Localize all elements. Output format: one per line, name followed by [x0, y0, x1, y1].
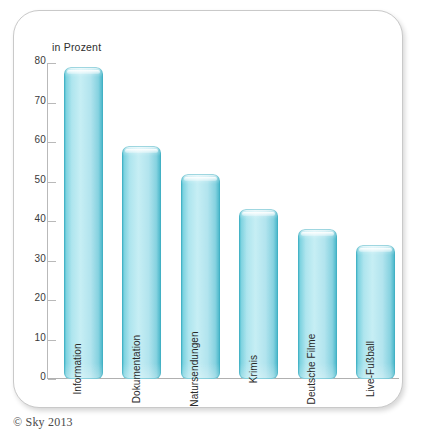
copyright-text: © Sky 2013 — [13, 415, 73, 430]
bar-category-label: Krimis — [248, 355, 259, 383]
y-tick-label: 50 — [34, 174, 46, 185]
bar-highlight — [359, 248, 392, 252]
bar[interactable]: Dokumentation — [122, 146, 161, 379]
y-tick-label: 20 — [34, 292, 46, 303]
chart-card: in Prozent 01020304050607080 Information… — [13, 10, 403, 408]
bar[interactable]: Natursendungen — [181, 174, 220, 379]
bar-category-label: Natursendungen — [189, 331, 200, 406]
y-tick: 0 — [15, 379, 59, 380]
bar-highlight — [301, 232, 334, 236]
bar-highlight — [184, 177, 217, 181]
bar-slot: Information — [64, 63, 103, 379]
bar-series: InformationDokumentationNatursendungenKr… — [48, 63, 399, 379]
bar-slot: Deutsche Filme — [298, 63, 337, 379]
bar-category-label: Live-Fußball — [365, 341, 376, 397]
bar-slot: Krimis — [239, 63, 278, 379]
bar-category-label: Dokumentation — [131, 335, 142, 404]
bar-slot: Live-Fußball — [356, 63, 395, 379]
y-tick-label: 40 — [34, 213, 46, 224]
y-tick-label: 60 — [34, 134, 46, 145]
bar[interactable]: Krimis — [239, 209, 278, 379]
y-tick-label: 10 — [34, 332, 46, 343]
bar-slot: Dokumentation — [122, 63, 161, 379]
bar[interactable]: Deutsche Filme — [298, 229, 337, 379]
y-axis-title: in Prozent — [52, 41, 101, 53]
bar-highlight — [67, 70, 100, 74]
bar[interactable]: Live-Fußball — [356, 245, 395, 379]
y-tick-mark — [48, 379, 56, 380]
bar-highlight — [125, 149, 158, 153]
bar-category-label: Deutsche Filme — [306, 334, 317, 405]
plot-area: 01020304050607080 InformationDokumentati… — [47, 63, 399, 379]
y-tick-label: 30 — [34, 253, 46, 264]
y-tick-label: 0 — [40, 371, 46, 382]
bar[interactable]: Information — [64, 67, 103, 379]
bar-slot: Natursendungen — [181, 63, 220, 379]
y-tick-label: 70 — [34, 95, 46, 106]
bar-category-label: Information — [72, 343, 83, 394]
bar-highlight — [242, 212, 275, 216]
y-tick-label: 80 — [34, 55, 46, 66]
